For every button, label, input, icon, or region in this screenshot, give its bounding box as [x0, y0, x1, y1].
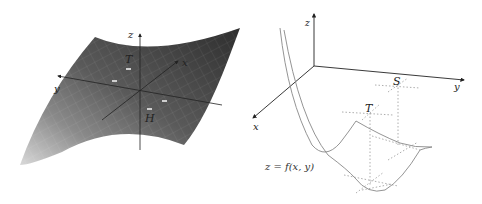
x-axis-label: x — [182, 57, 188, 68]
function-equation: z = f(x, y) — [264, 161, 314, 172]
y-axis — [314, 66, 464, 80]
x-axis-label: x — [253, 121, 259, 132]
point-label-t: T — [365, 102, 374, 115]
point-label-h: H — [144, 112, 155, 125]
y-axis-label: y — [453, 81, 460, 92]
z-axis-label: z — [304, 18, 310, 28]
figure: z x y T H z y x S — [0, 0, 482, 204]
surface-point-marker — [162, 100, 167, 102]
surface-point-marker — [126, 68, 131, 70]
guide-lines — [342, 78, 420, 193]
surface-point-marker — [112, 80, 117, 82]
z-axis-label: z — [127, 29, 134, 40]
curve-sketch-panel: z y x S T z = f(x, y) — [253, 14, 464, 193]
surface-point-marker — [147, 108, 152, 110]
saddle-surface-panel: z x y T H — [20, 28, 240, 165]
point-label-s: S — [393, 75, 401, 88]
cross-section-curve — [280, 28, 356, 152]
cross-section-curve — [356, 121, 432, 147]
y-axis-label: y — [53, 83, 60, 94]
